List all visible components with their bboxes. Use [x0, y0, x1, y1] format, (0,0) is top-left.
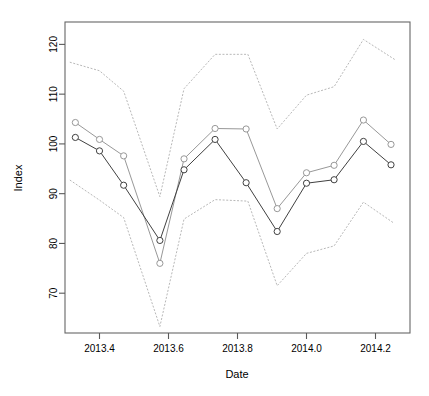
x-tick-label-2013.6: 2013.6 — [153, 343, 184, 354]
data-point-observed-4 — [181, 167, 187, 173]
x-tick-label-2013.4: 2013.4 — [84, 343, 115, 354]
y-tick-label-90: 90 — [49, 188, 60, 200]
data-point-observed-2 — [121, 182, 127, 188]
y-tick-label-120: 120 — [49, 36, 60, 53]
chart-container: 708090100110120 2013.42013.62013.82014.0… — [0, 0, 429, 396]
y-tick-label-70: 70 — [49, 287, 60, 299]
data-point-fitted-9 — [331, 162, 337, 168]
data-point-fitted-11 — [388, 141, 394, 147]
y-tick-label-110: 110 — [49, 86, 60, 102]
data-point-observed-10 — [360, 138, 366, 144]
y-tick-label-80: 80 — [49, 237, 60, 249]
data-point-observed-6 — [243, 180, 249, 186]
data-point-fitted-6 — [243, 126, 249, 132]
data-point-fitted-1 — [96, 136, 102, 142]
data-point-fitted-7 — [274, 206, 280, 212]
data-point-fitted-5 — [212, 125, 218, 131]
data-point-observed-7 — [274, 228, 280, 234]
data-point-fitted-4 — [181, 156, 187, 162]
data-point-fitted-0 — [72, 119, 78, 125]
data-point-fitted-8 — [303, 170, 309, 176]
data-point-observed-8 — [303, 180, 309, 186]
x-axis-title: Date — [225, 368, 248, 380]
x-tick-label-2014.0: 2014.0 — [291, 343, 322, 354]
data-point-observed-0 — [72, 134, 78, 140]
data-point-fitted-3 — [157, 260, 163, 266]
data-point-fitted-10 — [360, 117, 366, 123]
y-axis-title: Index — [12, 164, 24, 191]
data-point-observed-9 — [331, 177, 337, 183]
x-tick-label-2013.8: 2013.8 — [222, 343, 253, 354]
data-point-observed-1 — [96, 148, 102, 154]
index-vs-date-line-chart: 708090100110120 2013.42013.62013.82014.0… — [0, 0, 429, 396]
y-tick-label-100: 100 — [49, 135, 60, 152]
data-point-observed-5 — [212, 136, 218, 142]
data-point-observed-3 — [157, 237, 163, 243]
chart-background — [0, 0, 429, 396]
data-point-observed-11 — [388, 162, 394, 168]
x-tick-label-2014.2: 2014.2 — [360, 343, 391, 354]
data-point-fitted-2 — [121, 153, 127, 159]
